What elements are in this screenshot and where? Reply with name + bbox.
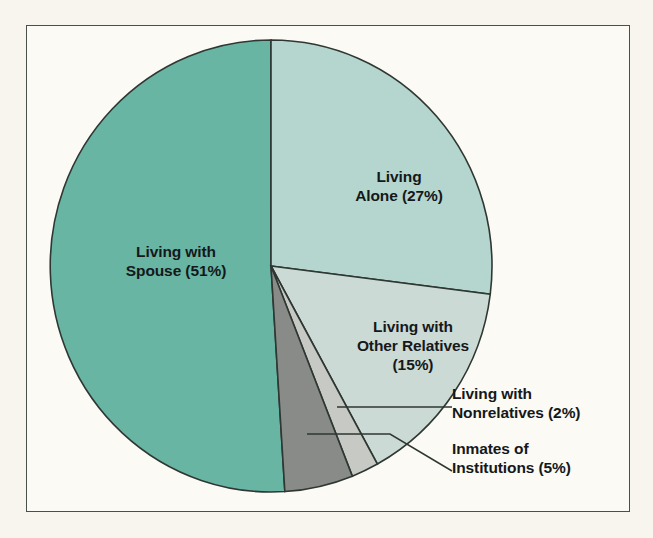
pie-label-living-with-spouse: Living with Spouse (51%): [92, 243, 260, 281]
chart-page: Living Alone (27%) Living with Spouse (5…: [0, 0, 653, 538]
pie-label-living-with-nonrelatives: Living with Nonrelatives (2%): [452, 385, 642, 423]
pie-label-living-alone: Living Alone (27%): [324, 168, 474, 206]
pie-label-living-with-other-relatives: Living with Other Relatives (15%): [330, 318, 496, 375]
pie-label-inmates-of-institutions: Inmates of Institutions (5%): [452, 440, 642, 478]
